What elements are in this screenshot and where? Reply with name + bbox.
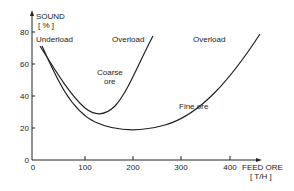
x-axis-arrow-icon xyxy=(256,158,262,162)
x-tick-100: 100 xyxy=(78,163,92,172)
y-axis-title: SOUND xyxy=(36,12,65,21)
y-tick-0: 0 xyxy=(25,156,30,165)
coarse-ore-label-1: Coarse xyxy=(97,68,123,77)
x-tick-300: 300 xyxy=(174,163,188,172)
underload-label: Underload xyxy=(36,35,73,44)
x-tick-0: 0 xyxy=(31,163,36,172)
y-tick-20: 20 xyxy=(20,124,29,133)
x-tick-200: 200 xyxy=(126,163,140,172)
y-tick-40: 40 xyxy=(20,92,29,101)
x-tick-400: 400 xyxy=(223,163,237,172)
overload-fine-label: Overload xyxy=(193,35,225,44)
coarse-ore-label-2: ore xyxy=(104,77,116,86)
y-axis-unit: [ % ] xyxy=(38,21,54,30)
y-tick-80: 80 xyxy=(20,28,29,37)
fine-ore-label: Fine ore xyxy=(179,102,209,111)
chart: 0 20 40 60 80 0 100 200 300 400 SOUND [ … xyxy=(0,0,294,191)
x-axis-title: FEED ORE xyxy=(242,163,283,172)
fine-ore-curve xyxy=(42,34,260,130)
overload-coarse-label: Overload xyxy=(112,35,144,44)
x-axis-unit: [ T/H ] xyxy=(250,172,272,181)
y-axis-arrow-icon xyxy=(30,10,34,16)
y-tick-60: 60 xyxy=(20,60,29,69)
